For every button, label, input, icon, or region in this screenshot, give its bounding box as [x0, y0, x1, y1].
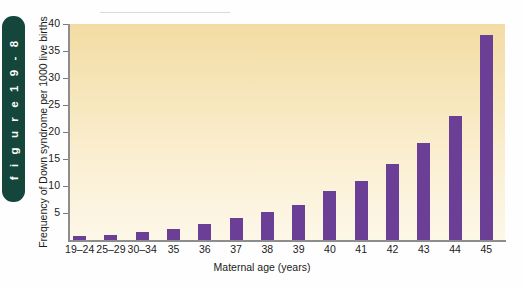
x-axis-line — [68, 240, 506, 242]
page-rule — [100, 12, 230, 13]
x-axis-tick-label: 30–34 — [128, 243, 157, 255]
bar — [417, 143, 430, 240]
x-axis-tick-label: 35 — [168, 243, 180, 255]
figure-number-tab: f i g u r e 1 9 - 8 — [2, 16, 25, 202]
bar — [292, 205, 305, 240]
x-axis-tick-label: 36 — [199, 243, 211, 255]
bar — [198, 224, 211, 240]
y-axis-title-wrap: Frequency of Down syndrome per 1000 live… — [36, 24, 50, 240]
bar — [104, 235, 117, 240]
x-axis-tick-label: 44 — [449, 243, 461, 255]
bar — [73, 236, 86, 240]
x-axis-tick-label: 42 — [387, 243, 399, 255]
bar — [230, 218, 243, 240]
x-axis-tick-label: 43 — [418, 243, 430, 255]
x-axis-tick-labels: 19–2425–2930–343536373839404142434445 — [68, 243, 506, 259]
y-axis-title: Frequency of Down syndrome per 1000 live… — [37, 16, 49, 248]
bar-series — [68, 24, 506, 240]
bar — [449, 116, 462, 240]
bar — [323, 191, 336, 240]
x-axis-tick-label: 39 — [293, 243, 305, 255]
x-axis-tick-label: 45 — [481, 243, 493, 255]
bar — [355, 181, 368, 240]
x-axis-tick-label: 19–24 — [65, 243, 94, 255]
x-axis-tick-label: 41 — [355, 243, 367, 255]
figure-root: f i g u r e 1 9 - 8 510152025303540 19–2… — [0, 0, 524, 289]
bar — [136, 232, 149, 240]
figure-number-label: f i g u r e 1 9 - 8 — [8, 38, 20, 181]
x-axis-tick-label: 25–29 — [96, 243, 125, 255]
x-axis-tick-label: 40 — [324, 243, 336, 255]
x-axis-tick-label: 37 — [230, 243, 242, 255]
bar — [480, 35, 493, 240]
bar — [386, 164, 399, 240]
x-axis-tick-label: 38 — [262, 243, 274, 255]
bar — [167, 229, 180, 240]
x-axis-title: Maternal age (years) — [0, 261, 524, 273]
bar — [261, 212, 274, 240]
